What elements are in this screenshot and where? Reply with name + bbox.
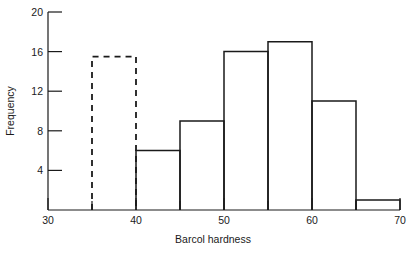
x-tick-label-70: 70: [394, 214, 406, 226]
histogram-bar-60-65: [312, 101, 356, 210]
x-tick-label-40: 40: [130, 214, 142, 226]
y-tick-label-12: 12: [31, 85, 43, 97]
x-tick-label-50: 50: [218, 214, 230, 226]
y-tick-label-4: 4: [37, 164, 43, 176]
histogram-bars: [92, 42, 400, 210]
histogram-bar-65-70: [356, 200, 400, 210]
y-axis-title: Frequency: [4, 85, 16, 135]
y-tick-label-20: 20: [31, 6, 43, 18]
histogram-bar-55-60: [268, 42, 312, 210]
histogram-bar-35-40: [92, 57, 136, 210]
histogram-figure: 20 16 12 8 4 30 40 50 60 70 Barcol hardn…: [0, 0, 413, 257]
y-tick-label-8: 8: [37, 125, 43, 137]
histogram-bar-40-45: [136, 151, 180, 210]
x-axis-title: Barcol hardness: [175, 233, 251, 245]
y-tick-label-16: 16: [31, 46, 43, 58]
histogram-bar-45-50: [180, 121, 224, 210]
chart-svg: 20 16 12 8 4 30 40 50 60 70 Barcol hardn…: [0, 0, 413, 257]
histogram-bar-50-55: [224, 52, 268, 210]
x-tick-label-60: 60: [306, 214, 318, 226]
x-tick-label-30: 30: [42, 214, 54, 226]
